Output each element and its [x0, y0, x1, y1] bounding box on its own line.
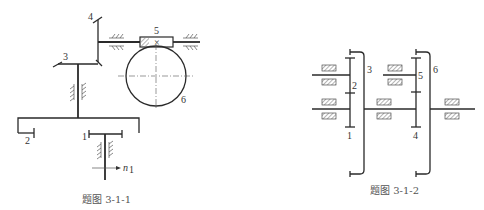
- gear-5-and-4: [411, 58, 421, 127]
- label-gear-4: 4: [413, 130, 418, 141]
- bearings-left: [322, 65, 336, 119]
- figure-3-1-2: 3 2 1 6 5 4 题图 3-1-2: [312, 49, 475, 196]
- label-gear-1: 1: [347, 130, 352, 141]
- bevel-gear-4: [93, 17, 102, 62]
- label-gear-3: 3: [63, 51, 68, 62]
- label-gear-5: 5: [418, 70, 423, 81]
- diagram-canvas: n 1: [0, 0, 484, 210]
- carrier-arm: [18, 118, 139, 138]
- figure-3-1-1: n 1: [18, 11, 200, 205]
- ring-gear-6: [416, 49, 430, 177]
- label-gear-2: 2: [25, 135, 30, 146]
- label-gear-1: 1: [82, 131, 87, 142]
- input-speed-arrow: n 1: [92, 162, 134, 175]
- caption-right: 题图 3-1-2: [370, 185, 419, 196]
- label-gear-3: 3: [367, 64, 372, 75]
- label-gear-4: 4: [88, 11, 93, 22]
- label-worm-5: 5: [154, 25, 159, 36]
- label-gear-2: 2: [352, 80, 357, 91]
- input-speed-subscript: 1: [129, 164, 134, 175]
- gear-1: [89, 130, 122, 180]
- caption-left: 题图 3-1-1: [82, 194, 131, 205]
- gear-2-and-1: [345, 58, 355, 127]
- bearings-middle: [377, 65, 402, 119]
- label-wormwheel-6: 6: [181, 94, 186, 105]
- input-speed-label: n: [123, 162, 128, 173]
- label-gear-6: 6: [433, 64, 438, 75]
- ring-gear-3: [350, 49, 364, 177]
